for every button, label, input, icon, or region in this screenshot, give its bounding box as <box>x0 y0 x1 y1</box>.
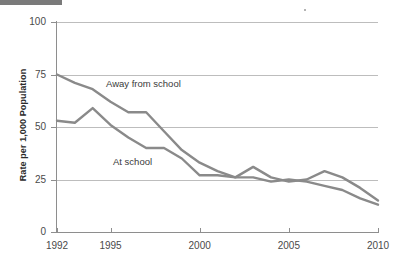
x-axis-tick-mark <box>378 228 379 233</box>
y-axis-tick-label: 50 <box>0 121 46 132</box>
series-label-at-school: At school <box>112 156 153 167</box>
x-axis-tick-label: 1995 <box>88 240 134 251</box>
y-axis-tick-label: 25 <box>0 174 46 185</box>
print-artifact-dot <box>304 9 306 11</box>
decorative-rule <box>0 0 62 5</box>
x-axis-tick-label: 2005 <box>266 240 312 251</box>
series-lines <box>57 22 378 232</box>
series-line-at-school <box>57 108 378 205</box>
series-label-away-from-school: Away from school <box>105 78 182 89</box>
y-axis-tick-label: 100 <box>0 16 46 27</box>
plot-area <box>57 22 378 232</box>
series-line-away-from-school <box>57 75 378 201</box>
x-axis-tick-label: 2000 <box>177 240 223 251</box>
x-axis-line <box>56 232 379 233</box>
x-axis-tick-label: 2010 <box>355 240 401 251</box>
y-axis-tick-label: 0 <box>0 226 46 237</box>
x-axis-tick-label: 1992 <box>34 240 80 251</box>
y-axis-tick-label: 75 <box>0 69 46 80</box>
chart-figure: Rate per 1,000 Population 0255075100 199… <box>0 0 409 264</box>
